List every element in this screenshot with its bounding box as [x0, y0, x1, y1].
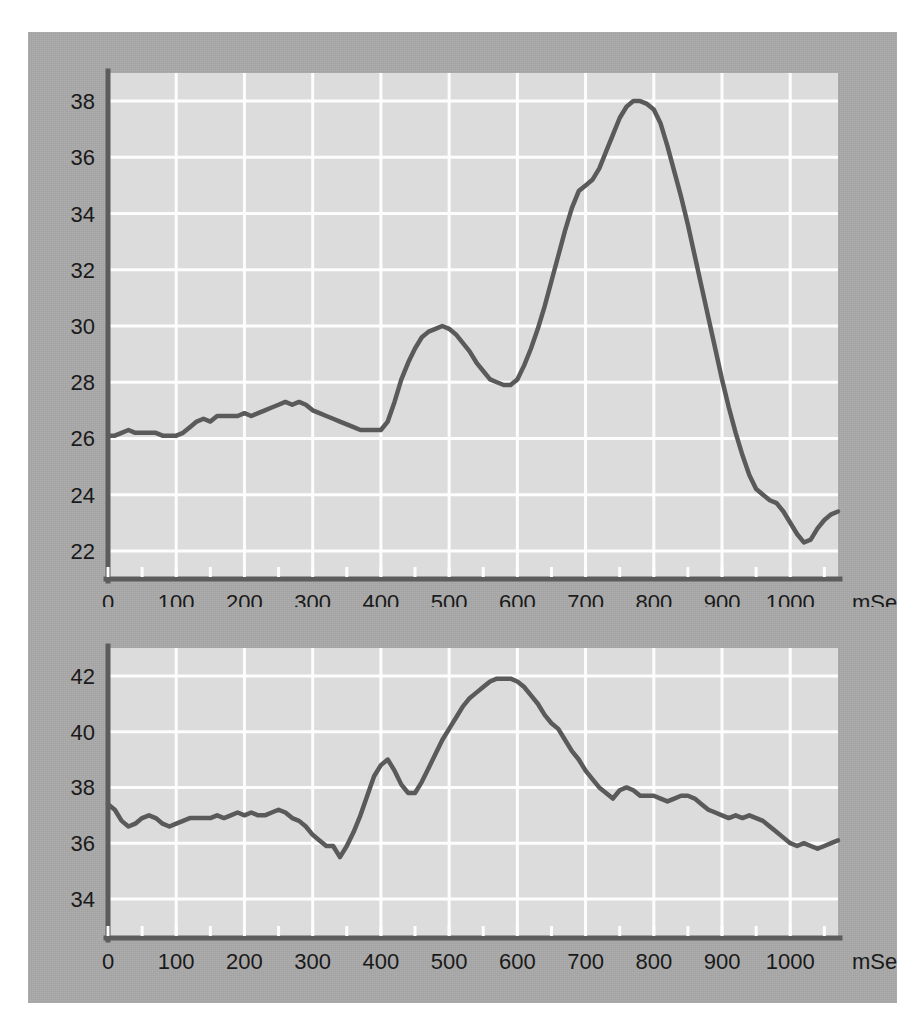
bottom-chart-svg: 3436384042010020030040050060070080090010…: [28, 607, 897, 1003]
x-axis-tick-label: 700: [567, 949, 604, 974]
x-axis-tick-label: 300: [294, 949, 331, 974]
x-axis-tick-label: 900: [704, 949, 741, 974]
x-axis-tick-label: 1000: [766, 590, 815, 607]
x-axis-tick-label: 100: [158, 949, 195, 974]
x-axis-tick-label: 500: [431, 590, 468, 607]
x-axis-tick-label: 0: [102, 590, 114, 607]
x-axis-tick-label: 0: [102, 949, 114, 974]
x-axis-tick-label: 600: [499, 590, 536, 607]
x-axis-tick-label: 600: [499, 949, 536, 974]
y-axis-tick-label: 32: [71, 258, 95, 283]
x-axis-tick-label: 1000: [766, 949, 815, 974]
y-axis-tick-label: 26: [71, 426, 95, 451]
x-axis-tick-label: 400: [363, 590, 400, 607]
y-axis-tick-label: 36: [71, 831, 95, 856]
y-axis-tick-label: 22: [71, 539, 95, 564]
x-axis-tick-label: 200: [226, 590, 263, 607]
y-axis-tick-label: 24: [71, 483, 95, 508]
x-axis-tick-label: 100: [158, 590, 195, 607]
x-axis-tick-label: 800: [635, 590, 672, 607]
top-chart: 2224262830323436380100200300400500600700…: [28, 32, 897, 607]
x-axis-tick-label: 700: [567, 590, 604, 607]
y-axis-tick-label: 40: [71, 720, 95, 745]
y-axis-tick-label: 30: [71, 314, 95, 339]
figure-root: 2224262830323436380100200300400500600700…: [0, 0, 919, 1036]
y-axis-tick-label: 28: [71, 370, 95, 395]
top-chart-svg: 2224262830323436380100200300400500600700…: [28, 32, 897, 607]
y-axis-tick-label: 38: [71, 89, 95, 114]
y-axis-tick-label: 34: [71, 202, 95, 227]
y-axis-tick-label: 42: [71, 664, 95, 689]
x-axis-tick-label: 900: [704, 590, 741, 607]
x-axis-unit-label: mSec: [852, 949, 897, 974]
y-axis-tick-label: 34: [71, 887, 95, 912]
x-axis-unit-label: mSec: [852, 590, 897, 607]
y-axis-tick-label: 36: [71, 145, 95, 170]
plot-background: [108, 648, 838, 938]
x-axis-tick-label: 800: [635, 949, 672, 974]
x-axis-tick-label: 300: [294, 590, 331, 607]
bottom-chart: 3436384042010020030040050060070080090010…: [28, 607, 897, 1003]
x-axis-tick-label: 200: [226, 949, 263, 974]
x-axis-tick-label: 400: [363, 949, 400, 974]
x-axis-tick-label: 500: [431, 949, 468, 974]
y-axis-tick-label: 38: [71, 775, 95, 800]
